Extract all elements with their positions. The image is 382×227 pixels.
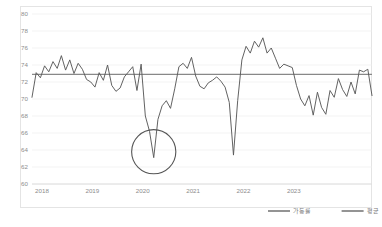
y-axis-tick-label: 72 [21, 78, 28, 85]
y-axis-labels-group: 6062646668707274767880 [21, 10, 28, 187]
gridlines-group [32, 14, 372, 184]
x-axis-tick-label: 2018 [35, 187, 49, 194]
y-axis-tick-label: 80 [21, 10, 28, 17]
x-axis-labels-group: 201820192020202120222023 [35, 187, 301, 194]
legend-label-1: 가동률 [293, 207, 311, 215]
legend-label-2: 평균 [367, 207, 379, 214]
operating-rate-series-line [32, 38, 372, 158]
x-axis-tick-label: 2019 [85, 187, 99, 194]
y-axis-tick-label: 62 [21, 163, 28, 170]
legend-group: 가동률평균 [268, 207, 379, 215]
y-axis-tick-label: 60 [21, 180, 28, 187]
x-axis-tick-label: 2022 [237, 187, 251, 194]
y-axis-tick-label: 74 [21, 61, 28, 68]
chart-canvas: 6062646668707274767880 20182019202020212… [0, 0, 382, 227]
y-axis-tick-label: 78 [21, 27, 28, 34]
y-axis-tick-label: 66 [21, 129, 28, 136]
x-axis-tick-label: 2020 [136, 187, 150, 194]
y-axis-tick-label: 64 [21, 146, 28, 153]
x-axis-tick-label: 2021 [186, 187, 200, 194]
y-axis-tick-label: 76 [21, 44, 28, 51]
x-axis-tick-label: 2023 [287, 187, 301, 194]
y-axis-tick-label: 70 [21, 95, 28, 102]
y-axis-tick-label: 68 [21, 112, 28, 119]
line-chart: 6062646668707274767880 20182019202020212… [0, 0, 382, 227]
